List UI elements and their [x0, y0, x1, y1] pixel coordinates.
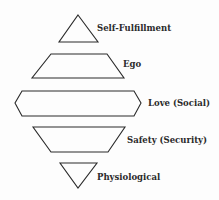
label-ego: Ego: [123, 59, 141, 69]
safety-shape: [33, 127, 125, 152]
label-love: Love (Social): [148, 98, 210, 108]
needs-diagram: Self-Fulfillment Ego Love (Social) Safet…: [0, 0, 219, 200]
label-self-fulfillment: Self-Fulfillment: [97, 23, 171, 33]
label-physiological: Physiological: [97, 172, 160, 182]
ego-shape: [32, 54, 124, 78]
self-fulfillment-shape: [59, 15, 98, 42]
love-shape: [15, 91, 141, 116]
label-safety: Safety (Security): [127, 135, 207, 145]
physiological-shape: [60, 163, 97, 188]
